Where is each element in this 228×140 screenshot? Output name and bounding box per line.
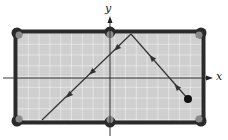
y-axis-arrow-icon (108, 16, 113, 23)
billiard-ball (184, 95, 192, 103)
x-axis-label: x (216, 71, 222, 82)
x-axis-arrow-icon (206, 76, 213, 81)
pocket-top-left (12, 28, 23, 39)
pocket-bottom-right (196, 116, 207, 127)
y-axis-label: y (105, 3, 111, 14)
billiard-diagram: y x (0, 0, 228, 140)
pocket-top-right (196, 28, 207, 39)
pocket-bottom-left (12, 116, 23, 127)
